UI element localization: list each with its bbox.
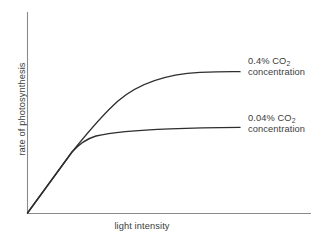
photosynthesis-light-intensity-chart: 0.4% CO2 concentration 0.04% CO2 concent…	[0, 0, 324, 240]
series-label-low-co2-line1: 0.04% CO2	[248, 113, 305, 124]
curve-low-co2	[28, 127, 241, 213]
y-axis-title: rate of photosynthesis	[17, 39, 27, 179]
series-label-high-co2: 0.4% CO2 concentration	[248, 56, 305, 79]
series-label-low-co2-subscript: 2	[292, 117, 296, 124]
x-axis-title: light intensity	[27, 221, 257, 231]
series-label-high-co2-text: 0.4% CO	[248, 56, 286, 66]
series-label-low-co2-line2: concentration	[248, 124, 305, 135]
series-label-low-co2-text: 0.04% CO	[248, 113, 292, 123]
series-label-high-co2-subscript: 2	[286, 60, 290, 67]
series-label-low-co2: 0.04% CO2 concentration	[248, 113, 305, 136]
series-label-high-co2-line2: concentration	[248, 67, 305, 78]
series-label-high-co2-line1: 0.4% CO2	[248, 56, 305, 67]
curve-high-co2	[28, 72, 241, 213]
